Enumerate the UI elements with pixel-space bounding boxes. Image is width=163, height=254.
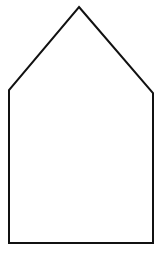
diagram-canvas [0, 0, 163, 254]
background [0, 0, 163, 254]
